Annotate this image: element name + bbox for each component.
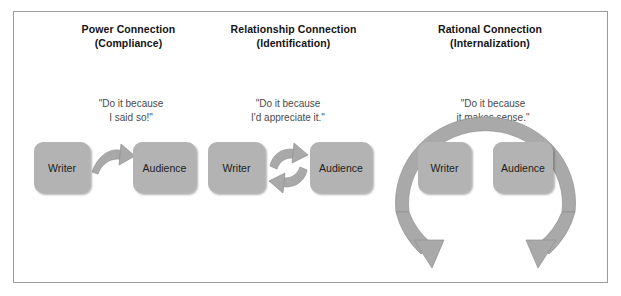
box-relationship-audience[interactable]: Audience xyxy=(310,142,372,193)
quote-power: "Do it because I said so!" xyxy=(56,97,206,124)
diagram-page: Power Connection (Compliance) Relationsh… xyxy=(0,0,621,296)
box-power-writer-label: Writer xyxy=(48,162,76,174)
panel-heading-rational-main: Rational Connection xyxy=(438,23,542,35)
quote-relationship: "Do it because I'd appreciate it." xyxy=(213,97,363,124)
box-power-audience-label: Audience xyxy=(143,162,187,174)
panel-heading-relationship: Relationship Connection (Identification) xyxy=(196,22,391,50)
box-relationship-writer-label: Writer xyxy=(223,162,251,174)
quote-rational-line2: it makes sense." xyxy=(418,111,568,125)
quote-rational-line1: "Do it because xyxy=(418,97,568,111)
panel-heading-power-main: Power Connection xyxy=(82,23,176,35)
box-rational-audience[interactable]: Audience xyxy=(493,142,553,193)
panel-heading-power-sub: (Compliance) xyxy=(46,36,211,50)
box-relationship-writer[interactable]: Writer xyxy=(208,142,265,193)
quote-power-line2: I said so!" xyxy=(56,111,206,125)
quote-relationship-line1: "Do it because xyxy=(213,97,363,111)
box-rational-audience-label: Audience xyxy=(501,162,545,174)
panel-heading-power: Power Connection (Compliance) xyxy=(46,22,211,50)
panel-heading-rational: Rational Connection (Internalization) xyxy=(400,22,580,50)
box-power-writer[interactable]: Writer xyxy=(34,142,90,193)
box-power-audience[interactable]: Audience xyxy=(133,142,196,193)
box-rational-writer[interactable]: Writer xyxy=(418,142,471,193)
quote-relationship-line2: I'd appreciate it." xyxy=(213,111,363,125)
box-rational-writer-label: Writer xyxy=(431,162,459,174)
panel-heading-relationship-sub: (Identification) xyxy=(196,36,391,50)
panel-heading-rational-sub: (Internalization) xyxy=(400,36,580,50)
panel-heading-relationship-main: Relationship Connection xyxy=(231,23,357,35)
box-relationship-audience-label: Audience xyxy=(319,162,363,174)
quote-rational: "Do it because it makes sense." xyxy=(418,97,568,124)
quote-power-line1: "Do it because xyxy=(56,97,206,111)
